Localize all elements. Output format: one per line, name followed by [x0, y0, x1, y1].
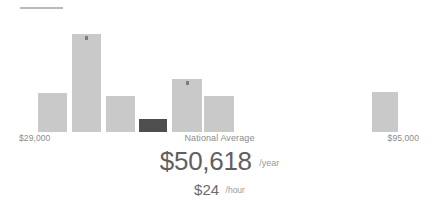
bar-peak-marker-icon — [85, 36, 88, 40]
hourly-salary-row: $24 /hour — [0, 182, 439, 198]
chart-bar[interactable] — [204, 96, 234, 132]
annual-salary-row: $50,618 /year — [0, 148, 439, 174]
salary-summary: $50,618 /year $24 /hour — [0, 148, 439, 198]
chart-bar[interactable] — [72, 34, 101, 132]
hourly-salary-unit: /hour — [226, 185, 245, 195]
axis-label-max: $95,000 — [388, 133, 419, 143]
chart-bar[interactable] — [172, 79, 202, 132]
hourly-salary-amount: $24 — [194, 181, 219, 198]
bar-peak-marker-icon — [186, 81, 189, 85]
salary-distribution-chart — [0, 0, 439, 132]
chart-bar[interactable] — [38, 93, 67, 132]
chart-bar[interactable] — [139, 119, 167, 132]
chart-bar[interactable] — [106, 96, 135, 132]
axis-label-national-average: National Average — [0, 133, 439, 143]
annual-salary-unit: /year — [259, 158, 279, 168]
chart-bar[interactable] — [372, 92, 398, 132]
annual-salary-amount: $50,618 — [160, 146, 252, 176]
